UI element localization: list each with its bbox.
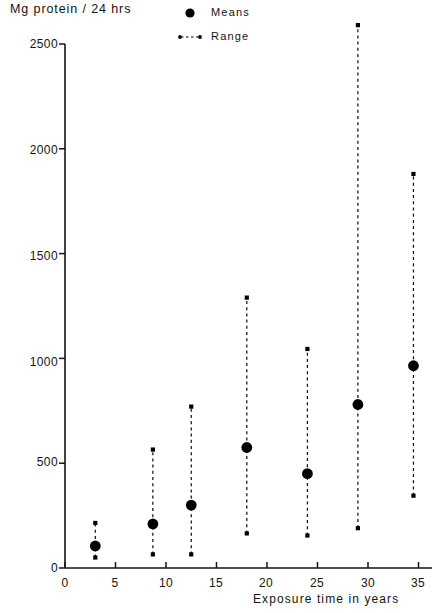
mean-marker-4 bbox=[302, 468, 313, 479]
range-low-cap-1 bbox=[151, 552, 155, 556]
range-low-cap-0 bbox=[93, 555, 97, 559]
plot-area bbox=[0, 0, 448, 613]
mean-marker-3 bbox=[241, 442, 252, 453]
axes-group bbox=[59, 44, 432, 568]
range-low-cap-6 bbox=[411, 494, 415, 498]
mean-marker-2 bbox=[186, 500, 197, 511]
legend-means-marker bbox=[185, 8, 194, 17]
range-high-cap-1 bbox=[151, 447, 155, 451]
mean-marker-0 bbox=[90, 541, 101, 552]
range-high-cap-2 bbox=[189, 405, 193, 409]
range-low-cap-2 bbox=[189, 552, 193, 556]
mean-marker-1 bbox=[147, 519, 158, 530]
range-high-cap-6 bbox=[411, 172, 415, 176]
range-high-cap-3 bbox=[245, 296, 249, 300]
range-bars-group bbox=[93, 23, 415, 560]
chart-page: Mg protein / 24 hrs Exposure time in yea… bbox=[0, 0, 448, 613]
range-high-cap-4 bbox=[305, 347, 309, 351]
legend-marks-group bbox=[178, 8, 202, 38]
legend-range-marker-left bbox=[178, 35, 182, 39]
range-low-cap-4 bbox=[305, 533, 309, 537]
range-low-cap-3 bbox=[245, 531, 249, 535]
x-axis-ticks bbox=[65, 562, 419, 568]
mean-markers-group bbox=[90, 360, 419, 551]
range-high-cap-5 bbox=[356, 23, 360, 27]
range-low-cap-5 bbox=[356, 526, 360, 530]
legend-range-marker-right bbox=[198, 35, 202, 39]
mean-marker-6 bbox=[408, 360, 419, 371]
y-axis-ticks bbox=[59, 44, 65, 568]
range-high-cap-0 bbox=[93, 521, 97, 525]
mean-marker-5 bbox=[353, 399, 364, 410]
